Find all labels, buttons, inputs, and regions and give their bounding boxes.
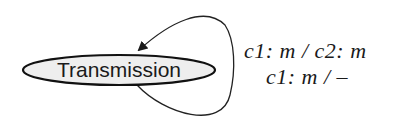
diagram-canvas: Transmission c1: m / c2: m c1: m / – [0,0,407,123]
state-label: Transmission [57,58,181,81]
state-node-transmission: Transmission [23,55,215,85]
transition-label-1: c1: m / c2: m [244,38,367,64]
transition-label-2: c1: m / – [266,64,348,90]
